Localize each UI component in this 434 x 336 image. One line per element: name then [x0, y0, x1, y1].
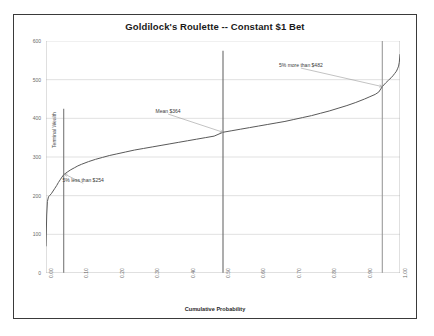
chart-title: Goldilock's Roulette -- Constant $1 Bet — [14, 21, 416, 32]
y-tick-label: 300 — [19, 154, 41, 160]
x-tick-label: 0.20 — [119, 268, 125, 278]
annotation-p95: 5% more than $482 — [279, 62, 323, 68]
y-tick-label: 600 — [19, 38, 41, 44]
y-tick-label: 400 — [19, 115, 41, 121]
y-tick-label: 0 — [19, 270, 41, 276]
x-tick-label: 0.80 — [331, 268, 337, 278]
annotation-mean: Mean $364 — [156, 108, 181, 114]
x-tick-label: 0.90 — [367, 268, 373, 278]
x-tick-label: 0.60 — [260, 268, 266, 278]
x-tick-label: 0.30 — [154, 268, 160, 278]
x-tick-label: 0.50 — [225, 268, 231, 278]
x-tick-label: 0.70 — [296, 268, 302, 278]
chart-frame: Goldilock's Roulette -- Constant $1 Bet … — [13, 14, 417, 319]
x-axis-title: Cumulative Probability — [14, 306, 416, 312]
x-tick-label: 0.40 — [190, 268, 196, 278]
cdf-plot-svg — [46, 41, 400, 273]
x-tick-label: 0.00 — [48, 268, 54, 278]
y-tick-label: 100 — [19, 231, 41, 237]
x-tick-label: 0.10 — [83, 268, 89, 278]
plot-area — [46, 41, 400, 273]
x-tick-label: 1.00 — [402, 268, 408, 278]
annotation-p05: 5% less than $254 — [63, 177, 104, 183]
y-tick-label: 200 — [19, 193, 41, 199]
y-tick-label: 500 — [19, 77, 41, 83]
